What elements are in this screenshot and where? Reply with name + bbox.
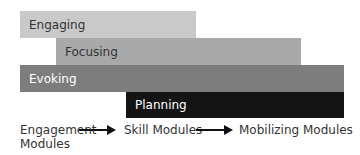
bar-label: Evoking (29, 72, 77, 86)
bar-label: Planning (135, 98, 187, 112)
bar-evoking: Evoking (20, 65, 344, 92)
flow-step-line2: Modules (20, 137, 97, 151)
flow-step-skill: Skill Modules (124, 123, 202, 137)
bar-engaging: Engaging (20, 11, 196, 38)
bar-planning: Planning (126, 92, 344, 118)
arrow-right-icon (196, 123, 234, 137)
flow-step-mobilizing: Mobilizing Modules (239, 123, 353, 137)
bar-label: Engaging (29, 18, 85, 32)
bar-focusing: Focusing (56, 38, 301, 65)
arrow-right-icon (79, 123, 117, 137)
bar-label: Focusing (65, 45, 118, 59)
